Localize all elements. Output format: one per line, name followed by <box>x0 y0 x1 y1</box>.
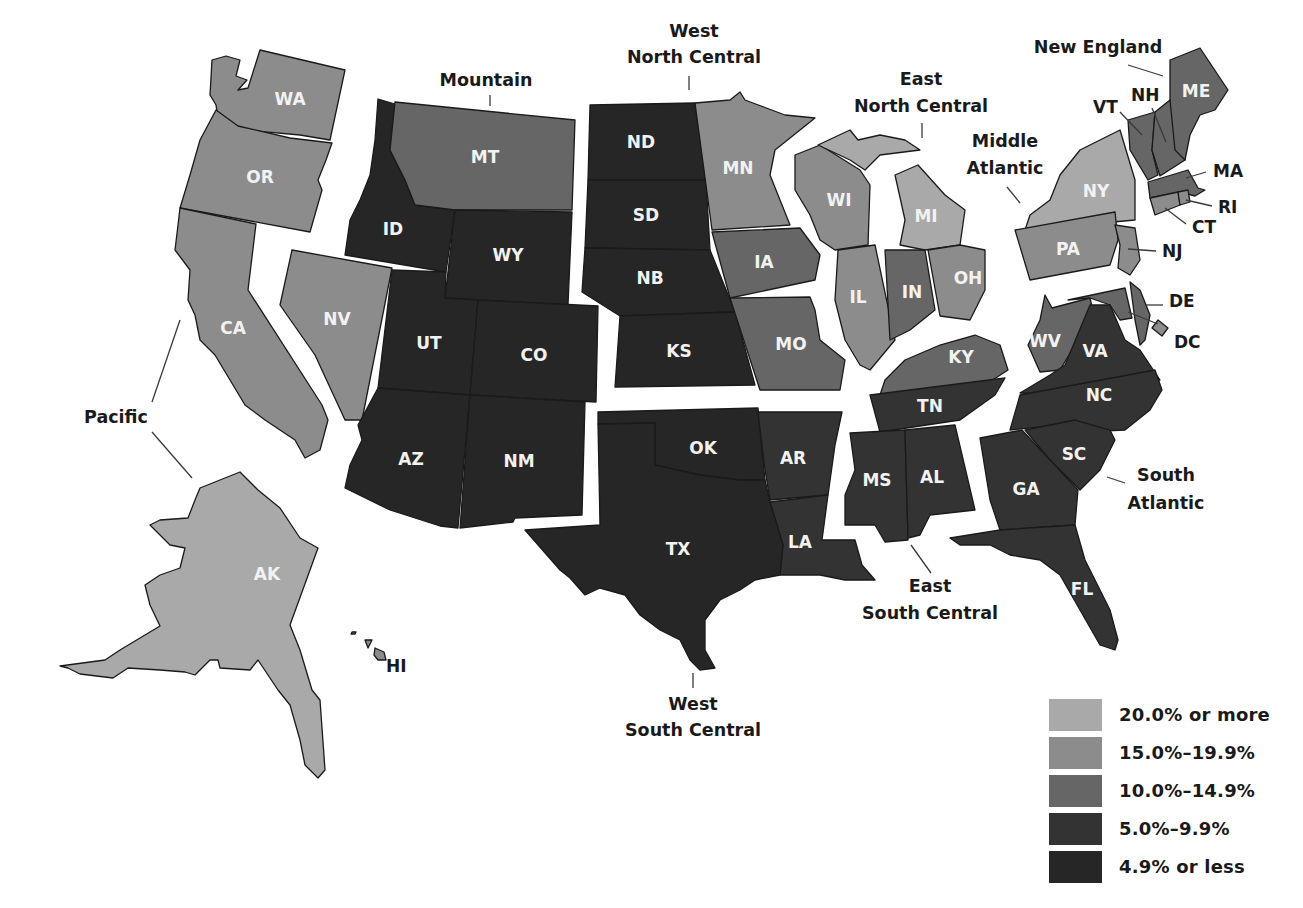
state-HI[interactable] <box>351 632 356 634</box>
label-VA: VA <box>1082 341 1108 361</box>
leader-pacific-down <box>152 432 192 478</box>
legend-label: 4.9% or less <box>1119 856 1245 877</box>
label-UT: UT <box>416 333 442 353</box>
leader-ne <box>1128 65 1163 76</box>
legend-label: 10.0%–14.9% <box>1119 780 1255 801</box>
label-HI: HI <box>386 656 407 676</box>
label-AL: AL <box>920 467 944 487</box>
label-NC: NC <box>1086 385 1113 405</box>
leader-sa <box>1107 477 1125 483</box>
region-label-new-england: New England <box>1034 37 1163 57</box>
label-WA: WA <box>274 89 306 109</box>
legend-swatch <box>1049 813 1102 845</box>
label-AR: AR <box>780 448 806 468</box>
label-SD: SD <box>633 205 659 225</box>
region-label-enc-line1: East <box>900 69 943 89</box>
label-FL: FL <box>1071 579 1094 599</box>
label-NY: NY <box>1083 181 1110 201</box>
leader-RI <box>1186 200 1212 206</box>
legend-item-4-9-or-less: 4.9% or less <box>1049 848 1299 885</box>
label-OR: OR <box>246 167 274 187</box>
label-ID: ID <box>383 219 403 239</box>
leader-CT <box>1165 208 1186 224</box>
legend-item-20-or-more: 20.0% or more <box>1049 696 1299 733</box>
state-AK[interactable] <box>60 472 325 778</box>
state-RI[interactable] <box>1178 190 1190 205</box>
legend-swatch <box>1049 851 1102 883</box>
label-ND: ND <box>627 132 655 152</box>
label-MN: MN <box>722 158 753 178</box>
label-CT: CT <box>1192 217 1216 237</box>
region-label-wsc-line1: West <box>668 694 717 714</box>
state-HI-island-2[interactable] <box>374 648 386 660</box>
legend-item-15-to-19: 15.0%–19.9% <box>1049 734 1299 771</box>
label-KY: KY <box>948 347 974 367</box>
legend-label: 20.0% or more <box>1119 704 1270 725</box>
legend-swatch <box>1049 699 1102 731</box>
region-label-ma-line1: Middle <box>972 131 1038 151</box>
label-CA: CA <box>220 318 246 338</box>
legend-swatch <box>1049 737 1102 769</box>
label-RI: RI <box>1218 197 1237 217</box>
label-NM: NM <box>503 451 534 471</box>
region-label-sa-line1: South <box>1137 465 1195 485</box>
state-NY[interactable] <box>1025 130 1135 230</box>
leader-esc <box>911 545 931 573</box>
label-LA: LA <box>788 532 813 552</box>
region-label-esc-line2: South Central <box>862 603 998 623</box>
region-label-wsc-line2: South Central <box>625 720 761 740</box>
region-label-wnc-line2: North Central <box>627 47 761 67</box>
label-OH: OH <box>954 268 983 288</box>
label-KS: KS <box>666 341 691 361</box>
label-MA: MA <box>1213 161 1244 181</box>
legend-swatch <box>1049 775 1102 807</box>
label-NV: NV <box>323 309 351 329</box>
label-NH: NH <box>1131 85 1159 105</box>
leader-pacific-up <box>152 320 180 402</box>
label-NJ: NJ <box>1162 241 1183 261</box>
label-ME: ME <box>1182 81 1211 101</box>
legend-item-10-to-14: 10.0%–14.9% <box>1049 772 1299 809</box>
region-label-sa-line2: Atlantic <box>1128 493 1205 513</box>
label-AK: AK <box>254 564 281 584</box>
state-ME[interactable] <box>1170 48 1228 160</box>
label-OK: OK <box>689 438 717 458</box>
label-IL: IL <box>849 287 866 307</box>
label-MS: MS <box>862 470 891 490</box>
region-label-pacific: Pacific <box>84 407 148 427</box>
region-label-esc-line1: East <box>909 576 952 596</box>
region-label-ma-line2: Atlantic <box>967 158 1044 178</box>
legend: 20.0% or more 15.0%–19.9% 10.0%–14.9% 5.… <box>1049 696 1299 886</box>
label-NB: NB <box>636 268 663 288</box>
region-label-mountain: Mountain <box>440 70 533 90</box>
label-AZ: AZ <box>398 449 423 469</box>
label-WV: WV <box>1029 331 1062 351</box>
label-WI: WI <box>826 190 851 210</box>
legend-item-5-to-9: 5.0%–9.9% <box>1049 810 1299 847</box>
legend-label: 5.0%–9.9% <box>1119 818 1230 839</box>
leader-ma <box>1007 187 1020 203</box>
region-label-wnc-line1: West <box>669 21 718 41</box>
label-VT: VT <box>1093 97 1118 117</box>
label-CO: CO <box>521 345 548 365</box>
label-WY: WY <box>492 245 524 265</box>
label-SC: SC <box>1062 444 1087 464</box>
region-label-enc-line2: North Central <box>854 96 988 116</box>
label-GA: GA <box>1012 479 1040 499</box>
label-DE: DE <box>1169 291 1195 311</box>
label-IN: IN <box>902 282 923 302</box>
label-TN: TN <box>917 396 943 416</box>
label-TX: TX <box>666 539 691 559</box>
label-MT: MT <box>471 147 500 167</box>
label-PA: PA <box>1056 239 1081 259</box>
label-DC: DC <box>1174 332 1201 352</box>
label-MI: MI <box>914 206 937 226</box>
label-IA: IA <box>754 252 774 272</box>
label-MO: MO <box>775 334 806 354</box>
state-HI-island-1[interactable] <box>365 640 372 648</box>
legend-label: 15.0%–19.9% <box>1119 742 1255 763</box>
